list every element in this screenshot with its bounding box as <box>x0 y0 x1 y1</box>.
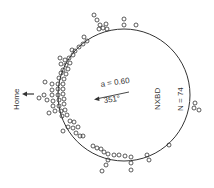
home-label: Home <box>12 88 21 110</box>
home-arrow-icon <box>22 92 34 97</box>
group-label: NXBD <box>153 88 162 110</box>
mean-angle-label: 351° <box>103 94 121 105</box>
mean-vector-label: a = 0.60 <box>100 76 131 89</box>
orientation-diagram: Home a = 0.60 351° NXBD N = 74 <box>0 0 214 188</box>
n-label: N = 74 <box>176 87 185 111</box>
